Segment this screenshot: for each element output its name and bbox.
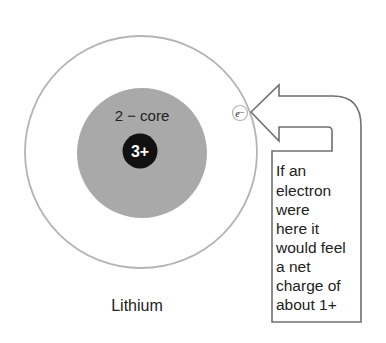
callout-line: electron — [276, 182, 331, 199]
callout-line: If an — [276, 162, 306, 179]
nucleus-label: 3+ — [131, 143, 149, 160]
callout-line: charge of — [276, 277, 341, 294]
callout-line: here it — [276, 220, 320, 237]
callout-line: would feel — [275, 239, 346, 256]
callout-line: about 1+ — [276, 296, 337, 313]
atom-label: Lithium — [111, 297, 163, 314]
core-label: 2 − core — [115, 107, 170, 124]
electron-label: e⁻ — [235, 108, 245, 119]
callout-line: were — [275, 201, 310, 218]
lithium-atom-diagram: 2 − core 3+ e⁻ If an electron were here … — [0, 0, 386, 343]
callout-line: a net — [276, 258, 311, 275]
